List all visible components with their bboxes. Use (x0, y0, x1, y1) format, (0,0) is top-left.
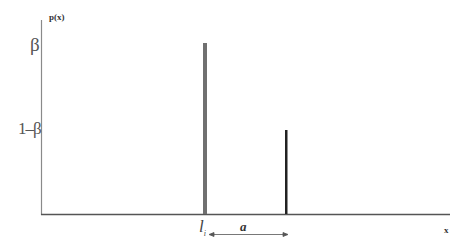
bar-beta (203, 43, 207, 214)
distance-arrow (209, 233, 288, 237)
l-i-label: li (199, 217, 206, 238)
diagram-canvas (0, 0, 472, 245)
beta-tick-label: β (30, 34, 40, 56)
y-axis-label: p(x) (49, 12, 65, 22)
distance-a-label: a (240, 219, 247, 235)
bar-one-minus-beta (285, 130, 288, 214)
x-axis-label: x (444, 225, 449, 235)
l-subscript: i (204, 229, 206, 238)
one-minus-beta-tick-label: 1–β (18, 119, 41, 139)
